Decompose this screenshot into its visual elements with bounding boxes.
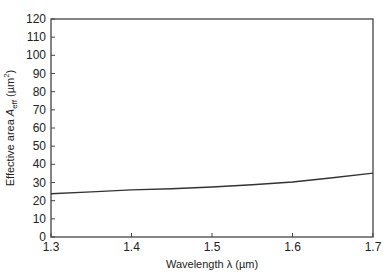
x-tick-label: 1.4 — [123, 240, 140, 254]
chart: 0102030405060708090100110120 1.31.41.51.… — [0, 0, 392, 276]
y-tick-label: 10 — [33, 212, 47, 226]
y-axis-label: Effective area Aeff (µm2) — [2, 70, 19, 187]
x-axis-ticks: 1.31.41.51.61.7 — [43, 233, 382, 254]
y-tick-label: 40 — [33, 157, 47, 171]
plot-border — [51, 19, 373, 237]
y-tick-label: 90 — [33, 67, 47, 81]
y-axis-label-unit: (µm — [4, 78, 16, 100]
y-tick-label: 100 — [26, 48, 46, 62]
plot-frame — [51, 19, 373, 237]
y-tick-label: 120 — [26, 12, 46, 26]
y-tick-label: 70 — [33, 103, 47, 117]
series-line — [51, 173, 373, 194]
y-tick-label: 110 — [27, 30, 46, 44]
y-axis-label-symbol: A — [4, 109, 16, 117]
y-tick-label: 20 — [33, 194, 47, 208]
y-tick-label: 50 — [33, 139, 47, 153]
data-series — [51, 173, 373, 194]
y-tick-label: 60 — [33, 121, 47, 135]
x-axis-label: Wavelength λ (µm) — [166, 258, 258, 270]
y-tick-label: 30 — [33, 176, 47, 190]
x-tick-label: 1.7 — [365, 240, 382, 254]
y-axis-label-prefix: Effective area — [4, 116, 16, 186]
x-tick-label: 1.5 — [204, 240, 221, 254]
x-tick-label: 1.6 — [284, 240, 301, 254]
x-tick-label: 1.3 — [43, 240, 60, 254]
y-tick-label: 80 — [33, 85, 47, 99]
y-axis-label-unit-close: ) — [4, 70, 16, 74]
